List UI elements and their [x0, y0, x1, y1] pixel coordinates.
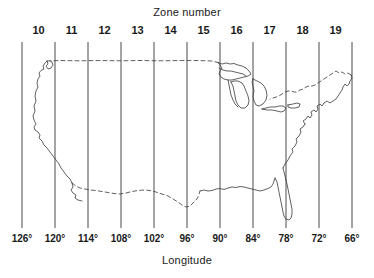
lon-label-102: 102°	[144, 233, 165, 244]
upper-peninsula-shore	[219, 68, 246, 76]
florida-peninsula	[275, 168, 292, 220]
southern-border-mexico	[72, 183, 200, 207]
zone-label-12: 12	[98, 24, 110, 36]
great-lakes-superior	[218, 63, 251, 81]
mid-atlantic-chesapeake	[303, 103, 324, 124]
texas-coast-detail	[71, 183, 82, 201]
zone-label-10: 10	[32, 24, 44, 36]
great-lakes-huron-erie	[252, 79, 267, 106]
west-coast-line	[33, 61, 72, 183]
great-lakes-michigan	[231, 81, 249, 108]
zone-label-15: 15	[197, 24, 209, 36]
zone-boundary-lines	[22, 42, 352, 228]
lon-label-108: 108°	[111, 233, 132, 244]
lon-label-84: 84°	[245, 233, 260, 244]
zone-label-19: 19	[329, 24, 341, 36]
lake-michigan-west-shore	[228, 80, 238, 107]
utm-zone-map-figure: Zone number	[0, 0, 374, 278]
great-lakes-erie-ontario	[262, 106, 286, 112]
lon-label-78: 78°	[278, 233, 293, 244]
new-england-coast	[324, 75, 352, 103]
zone-label-13: 13	[131, 24, 143, 36]
zone-label-11: 11	[66, 24, 78, 36]
lon-label-126: 126°	[12, 233, 33, 244]
zone-label-16: 16	[230, 24, 242, 36]
lake-ontario	[288, 103, 300, 108]
lon-label-114: 114°	[78, 233, 98, 244]
lon-label-96: 96°	[179, 233, 194, 244]
lon-label-90: 90°	[212, 233, 227, 244]
pacific-northwest-detail	[46, 61, 53, 69]
northern-border-49th-parallel	[47, 61, 218, 63]
usa-outline	[33, 61, 352, 221]
zone-label-17: 17	[263, 24, 275, 36]
lon-label-72: 72°	[311, 233, 326, 244]
lon-label-120: 120°	[45, 233, 66, 244]
x-axis-title: Longitude	[0, 254, 374, 266]
zone-label-14: 14	[164, 24, 176, 36]
gulf-coast-line	[200, 178, 275, 191]
zone-label-18: 18	[296, 24, 308, 36]
lon-label-66: 66°	[344, 233, 359, 244]
